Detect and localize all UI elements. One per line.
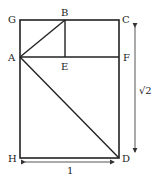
label-B: B: [61, 7, 68, 18]
label-H: H: [8, 153, 17, 164]
label-E: E: [61, 61, 68, 72]
width-label: 1: [67, 165, 73, 176]
geometry-diagram: G B C A E F H D 1 √2: [0, 0, 158, 179]
label-A: A: [7, 52, 16, 63]
label-C: C: [122, 14, 130, 25]
rectangle-GCDH: [20, 20, 119, 158]
segment-AB: [20, 20, 65, 57]
label-F: F: [123, 52, 130, 63]
segment-AD: [20, 57, 119, 158]
label-D: D: [122, 153, 130, 164]
label-G: G: [8, 14, 16, 25]
height-label: √2: [139, 85, 152, 96]
